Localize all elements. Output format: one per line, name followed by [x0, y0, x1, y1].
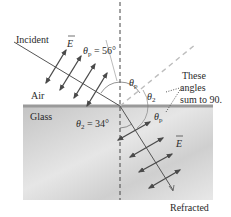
- theta-2-value-label: θ2 = 34°: [76, 119, 109, 131]
- refracted-label: Refracted: [170, 203, 209, 213]
- incident-e-field-arrows: [46, 50, 107, 106]
- note-line-3: sum to 90.: [180, 95, 222, 105]
- note-line-2: angles: [180, 83, 206, 93]
- theta-p-upper-label: θp: [129, 78, 137, 90]
- e-field-incident-label: E: [67, 39, 73, 49]
- theta-2-upper-label: θ2: [147, 92, 155, 104]
- theta-p-incident-arc: [101, 82, 120, 93]
- note-line-1: These: [182, 71, 206, 81]
- theta-p-lower-label: θp: [154, 112, 162, 124]
- polarization-diagram: [0, 0, 231, 217]
- e-field-refracted-label: E: [176, 139, 182, 149]
- air-label: Air: [31, 91, 44, 101]
- incident-label: Incident: [16, 35, 49, 45]
- theta-p-value-label: θp = 56°: [83, 46, 116, 58]
- glass-label: Glass: [30, 112, 52, 122]
